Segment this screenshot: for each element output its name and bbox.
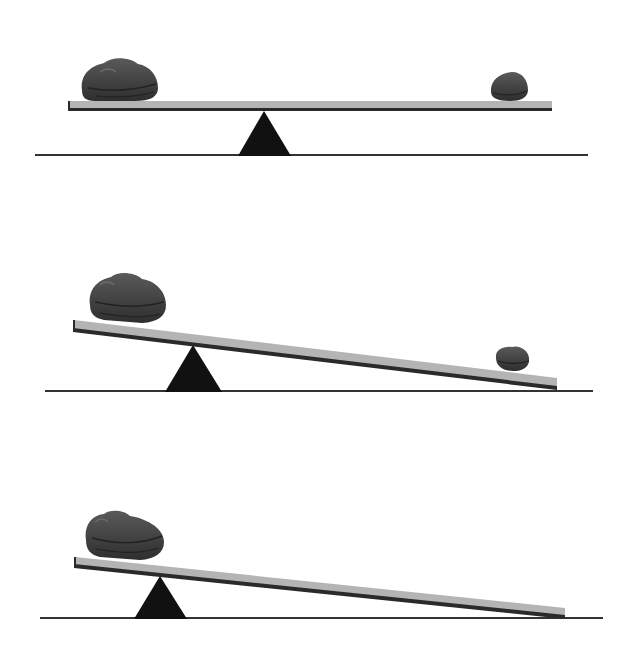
fulcrum-triangle xyxy=(238,111,291,156)
large-rock xyxy=(86,511,164,560)
large-rock xyxy=(82,58,158,101)
plank xyxy=(73,320,557,390)
small-rock xyxy=(496,346,529,371)
fulcrum-triangle xyxy=(165,345,222,392)
panel-balanced xyxy=(35,58,588,156)
seesaw-diagram xyxy=(0,0,633,661)
large-rock xyxy=(90,273,166,323)
panel-fulcrum-shifted xyxy=(45,273,593,392)
fulcrum-triangle xyxy=(134,576,187,619)
plank xyxy=(68,101,552,111)
panel-fulcrum-far-left xyxy=(40,511,603,619)
small-rock xyxy=(491,72,528,101)
